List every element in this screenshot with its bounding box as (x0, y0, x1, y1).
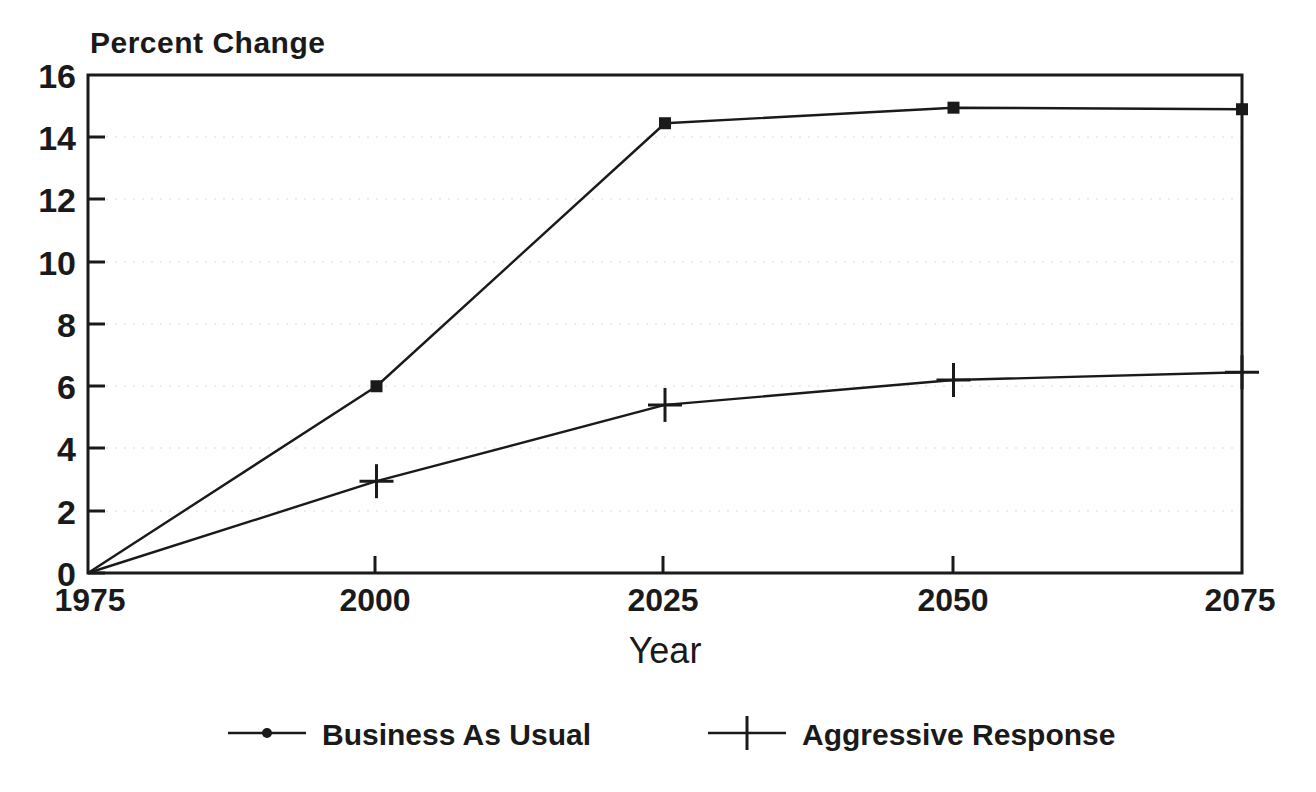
chart-figure: Percent Change 1 (0, 0, 1316, 792)
x-tick-label: 1975 (54, 582, 125, 618)
chart-background (0, 0, 1316, 792)
y-axis-title: Percent Change (90, 26, 325, 59)
data-point-dot (371, 380, 383, 392)
y-tick-label: 2 (57, 493, 76, 531)
y-tick-label: 14 (38, 119, 76, 157)
y-tick-label: 4 (57, 430, 76, 468)
x-tick-label: 2000 (339, 582, 410, 618)
x-tick-label: 2025 (627, 582, 698, 618)
x-tick-label: 2075 (1204, 582, 1275, 618)
y-tick-label: 8 (57, 306, 76, 344)
data-point-dot (948, 102, 960, 114)
dot-marker-icon (262, 728, 272, 738)
data-point-dot (659, 117, 671, 129)
y-tick-label: 16 (38, 57, 76, 95)
x-axis-title: Year (629, 630, 702, 671)
line-chart: Percent Change 1 (0, 0, 1316, 792)
y-tick-label: 10 (38, 244, 76, 282)
y-tick-label: 6 (57, 368, 76, 406)
legend-label: Aggressive Response (802, 718, 1115, 751)
x-tick-label: 2050 (917, 582, 988, 618)
legend-label: Business As Usual (322, 718, 591, 751)
y-tick-label: 12 (38, 181, 76, 219)
data-point-dot (1236, 103, 1248, 115)
